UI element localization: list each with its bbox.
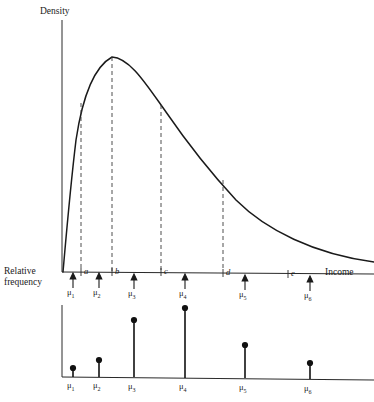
density-axis-label: Density	[40, 6, 70, 16]
midpoint-label-bottom-3: μ3	[128, 381, 136, 393]
mu-subscript: 5	[244, 388, 247, 394]
mu-subscript: 6	[309, 389, 312, 395]
stem-plot-markers	[70, 305, 313, 371]
midpoint-arrow-4	[182, 274, 188, 289]
midpoint-label-bottom-6: μ6	[304, 383, 312, 395]
mu-subscript: 1	[72, 293, 75, 299]
midpoint-label-top-3: μ3	[128, 288, 136, 300]
midpoint-label-bottom-4: μ4	[179, 381, 187, 393]
relative-frequency-panel	[62, 305, 374, 380]
midpoint-arrow-1	[70, 273, 76, 288]
mu-subscript: 3	[133, 387, 136, 393]
income-density-and-relative-frequency-figure	[0, 0, 374, 402]
midpoint-arrows	[70, 273, 313, 291]
density-panel	[62, 20, 374, 291]
relative-frequency-label-line1: Relative	[4, 266, 36, 276]
mu-subscript: 1	[72, 386, 75, 392]
mu-subscript: 3	[133, 294, 136, 300]
density-curve	[63, 57, 374, 272]
boundary-label-e: e	[291, 268, 295, 278]
stem-marker-1	[70, 365, 76, 371]
midpoint-arrow-3	[131, 274, 137, 289]
boundary-label-d: d	[226, 267, 230, 277]
stem-marker-3	[131, 317, 137, 323]
midpoint-label-top-4: μ4	[179, 288, 187, 300]
stem-marker-6	[307, 360, 313, 366]
mu-subscript: 5	[244, 295, 247, 301]
boundary-drop-lines	[81, 57, 223, 271]
stem-marker-5	[242, 342, 248, 348]
midpoint-label-bottom-2: μ2	[93, 380, 101, 392]
boundary-label-a: a	[84, 266, 88, 276]
relative-frequency-label-line2: frequency	[4, 277, 42, 287]
mu-subscript: 4	[184, 387, 187, 393]
relative-frequency-axis-label: Relative frequency	[4, 266, 42, 288]
midpoint-label-top-1: μ1	[67, 287, 75, 299]
boundary-label-b: b	[115, 266, 119, 276]
stem-plot-stems	[73, 309, 310, 379]
midpoint-label-bottom-1: μ1	[67, 380, 75, 392]
stem-marker-4	[182, 305, 188, 311]
mu-subscript: 2	[98, 293, 101, 299]
midpoint-label-bottom-5: μ5	[239, 382, 247, 394]
midpoint-arrow-2	[96, 273, 102, 288]
mu-subscript: 6	[309, 296, 312, 302]
mu-subscript: 4	[184, 294, 187, 300]
relfreq-x-axis	[62, 377, 374, 380]
midpoint-arrow-5	[242, 275, 248, 290]
midpoint-label-top-2: μ2	[93, 287, 101, 299]
boundary-label-c: c	[164, 266, 168, 276]
mu-subscript: 2	[98, 386, 101, 392]
stem-marker-2	[96, 357, 102, 363]
income-axis-label: Income	[325, 267, 354, 277]
midpoint-label-top-5: μ5	[239, 289, 247, 301]
midpoint-arrow-6	[307, 276, 313, 291]
midpoint-label-top-6: μ6	[304, 290, 312, 302]
